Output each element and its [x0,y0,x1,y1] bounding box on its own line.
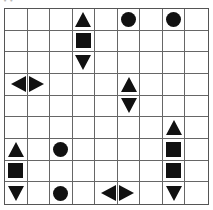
circle-icon [121,12,136,27]
board-cell-r2-c6[interactable] [140,52,163,74]
board-cell-r1-c4[interactable] [95,31,118,53]
board-cell-r5-c0[interactable] [5,117,28,139]
board-cell-r2-c5[interactable] [118,52,141,74]
board-cell-r2-c1[interactable] [28,52,51,74]
board-cell-r4-c7[interactable] [163,96,186,118]
board-cell-r3-c0[interactable] [5,74,28,96]
board-cell-r6-c4[interactable] [95,139,118,161]
board-cell-r3-c6[interactable] [140,74,163,96]
triangle-up-icon [121,77,137,92]
board-cell-r8-c5[interactable] [118,182,141,204]
board-cell-r6-c3[interactable] [73,139,96,161]
board-cell-r4-c4[interactable] [95,96,118,118]
board-cell-r7-c4[interactable] [95,161,118,183]
board-cell-r7-c7[interactable] [163,161,186,183]
board-cell-r8-c3[interactable] [73,182,96,204]
circle-icon [53,186,68,201]
board-cell-r7-c0[interactable] [5,161,28,183]
triangle-right-icon [29,76,44,92]
square-icon [166,142,181,157]
board-cell-r2-c4[interactable] [95,52,118,74]
board-cell-r5-c2[interactable] [50,117,73,139]
board-cell-r4-c0[interactable] [5,96,28,118]
square-icon [8,163,23,178]
board-cell-r4-c1[interactable] [28,96,51,118]
board-cell-r6-c0[interactable] [5,139,28,161]
board-cell-r0-c6[interactable] [140,9,163,31]
board-cell-r1-c3[interactable] [73,31,96,53]
board-cell-r3-c7[interactable] [163,74,186,96]
triangle-down-icon [166,186,182,201]
board-cell-r0-c8[interactable] [185,9,208,31]
board-cell-r8-c7[interactable] [163,182,186,204]
board-cell-r6-c5[interactable] [118,139,141,161]
board-cell-r0-c4[interactable] [95,9,118,31]
board-cell-r5-c8[interactable] [185,117,208,139]
board-cell-r7-c6[interactable] [140,161,163,183]
board-cell-r3-c1[interactable] [28,74,51,96]
square-icon [166,163,181,178]
board-cell-r4-c3[interactable] [73,96,96,118]
board-cell-r0-c0[interactable] [5,9,28,31]
board-cell-r0-c7[interactable] [163,9,186,31]
board-cell-r6-c8[interactable] [185,139,208,161]
board-cell-r5-c6[interactable] [140,117,163,139]
triangle-up-icon [75,12,91,27]
triangle-down-icon [121,98,137,113]
triangle-down-icon [75,55,91,70]
circle-icon [53,142,68,157]
board-cell-r3-c3[interactable] [73,74,96,96]
board-cell-r5-c1[interactable] [28,117,51,139]
board-cell-r2-c7[interactable] [163,52,186,74]
board-cell-r1-c7[interactable] [163,31,186,53]
board-cell-r7-c8[interactable] [185,161,208,183]
board-cell-r3-c2[interactable] [50,74,73,96]
board-cell-r8-c0[interactable] [5,182,28,204]
board-cell-r8-c2[interactable] [50,182,73,204]
square-icon [76,33,91,48]
triangle-up-icon [166,120,182,135]
board-cell-r4-c6[interactable] [140,96,163,118]
board-cell-r2-c0[interactable] [5,52,28,74]
puzzle-label: • • [3,0,13,5]
board-cell-r3-c4[interactable] [95,74,118,96]
board-cell-r8-c8[interactable] [185,182,208,204]
board-cell-r0-c1[interactable] [28,9,51,31]
board-cell-r2-c8[interactable] [185,52,208,74]
board-cell-r6-c1[interactable] [28,139,51,161]
board-cell-r0-c3[interactable] [73,9,96,31]
board-cell-r8-c4[interactable] [95,182,118,204]
board-cell-r3-c8[interactable] [185,74,208,96]
board-cell-r3-c5[interactable] [118,74,141,96]
triangle-right-icon [119,185,134,201]
board-cell-r1-c2[interactable] [50,31,73,53]
board-cell-r8-c1[interactable] [28,182,51,204]
board-cell-r5-c7[interactable] [163,117,186,139]
board-cell-r2-c3[interactable] [73,52,96,74]
board-cell-r7-c1[interactable] [28,161,51,183]
board-cell-r6-c2[interactable] [50,139,73,161]
board-cell-r8-c6[interactable] [140,182,163,204]
board-cell-r4-c8[interactable] [185,96,208,118]
board-cell-r4-c2[interactable] [50,96,73,118]
board-cell-r7-c5[interactable] [118,161,141,183]
board-cell-r1-c1[interactable] [28,31,51,53]
board-cell-r6-c7[interactable] [163,139,186,161]
board-cell-r5-c5[interactable] [118,117,141,139]
board-cell-r0-c5[interactable] [118,9,141,31]
board-cell-r1-c6[interactable] [140,31,163,53]
board-cell-r7-c3[interactable] [73,161,96,183]
triangle-down-icon [8,186,24,201]
triangle-left-icon [101,185,116,201]
board-cell-r2-c2[interactable] [50,52,73,74]
board-cell-r4-c5[interactable] [118,96,141,118]
board-cell-r7-c2[interactable] [50,161,73,183]
board-cell-r5-c3[interactable] [73,117,96,139]
board-cell-r0-c2[interactable] [50,9,73,31]
triangle-up-icon [8,142,24,157]
board-cell-r5-c4[interactable] [95,117,118,139]
board-cell-r1-c8[interactable] [185,31,208,53]
board-cell-r1-c5[interactable] [118,31,141,53]
board-cell-r1-c0[interactable] [5,31,28,53]
board-cell-r6-c6[interactable] [140,139,163,161]
